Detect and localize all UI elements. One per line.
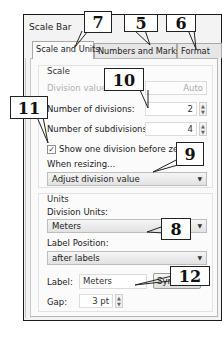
callout-11: 11 xyxy=(10,96,48,119)
show-one-division-checkbox[interactable]: ✓ xyxy=(47,145,56,154)
number-of-divisions-input[interactable]: 2 xyxy=(145,102,197,116)
callout-12: 12 xyxy=(170,266,210,286)
callout-6: 6 xyxy=(166,14,196,32)
callout-9: 9 xyxy=(176,142,204,166)
chevron-down-icon: ▼ xyxy=(197,252,202,264)
number-of-divisions-stepper[interactable]: ▲ ▼ xyxy=(199,102,207,116)
gap-input[interactable]: 3 pt xyxy=(79,294,113,308)
gap-label: Gap: xyxy=(47,297,67,307)
spin-down-icon[interactable]: ▼ xyxy=(200,129,206,135)
callout-10: 10 xyxy=(104,68,144,91)
label-position-dropdown[interactable]: after labels ▼ xyxy=(47,251,207,265)
callout-5: 5 xyxy=(124,14,158,32)
number-of-divisions-label: Number of divisions: xyxy=(47,104,135,114)
tab-scale-and-units[interactable]: Scale and Units xyxy=(32,41,94,59)
number-of-subdivisions-input[interactable]: 4 xyxy=(145,122,197,136)
units-group-title: Units xyxy=(47,194,69,204)
label-text-input[interactable]: Meters xyxy=(79,274,147,289)
spin-down-icon[interactable]: ▼ xyxy=(116,301,122,307)
show-one-division-label: Show one division before zero xyxy=(59,144,187,154)
tab-numbers-and-marks[interactable]: Numbers and Marks xyxy=(94,43,177,58)
tab-format[interactable]: Format xyxy=(177,43,222,58)
callout-8: 8 xyxy=(161,218,191,240)
division-units-value: Meters xyxy=(52,221,81,231)
label-position-label: Label Position: xyxy=(47,238,109,248)
when-resizing-label: When resizing... xyxy=(47,159,115,169)
chevron-down-icon: ▼ xyxy=(197,173,202,185)
callout-7: 7 xyxy=(84,11,112,33)
label-text-label: Label: xyxy=(47,277,73,287)
number-of-subdivisions-label: Number of subdivisions: xyxy=(47,124,150,134)
panel-title: Scale Bar xyxy=(29,22,71,32)
when-resizing-dropdown[interactable]: Adjust division value ▼ xyxy=(47,172,207,186)
number-of-subdivisions-stepper[interactable]: ▲ ▼ xyxy=(199,122,207,136)
chevron-down-icon: ▼ xyxy=(197,220,202,232)
division-value-field[interactable]: Auto xyxy=(145,81,207,95)
division-value-label: Division value: xyxy=(47,83,109,93)
label-position-value: after labels xyxy=(52,253,100,263)
gap-stepper[interactable]: ▲ ▼ xyxy=(115,294,123,308)
spin-down-icon[interactable]: ▼ xyxy=(200,109,206,115)
division-units-label: Division Units: xyxy=(47,207,108,217)
tab-strip: Scale and Units Numbers and Marks Format xyxy=(32,41,222,58)
scale-group-title: Scale xyxy=(47,66,70,76)
units-group: Units Division Units: Meters ▼ Label Pos… xyxy=(38,193,213,312)
when-resizing-value: Adjust division value xyxy=(52,174,140,184)
